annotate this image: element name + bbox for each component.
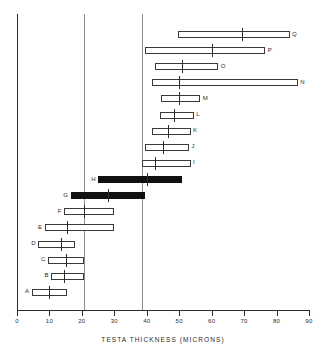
mean-marker xyxy=(67,221,68,234)
bar-row: F xyxy=(17,205,309,217)
range-bar xyxy=(145,47,265,54)
range-bar xyxy=(161,95,200,102)
mean-marker xyxy=(212,44,213,57)
range-bar xyxy=(38,241,75,248)
mean-marker xyxy=(155,157,156,170)
mean-marker xyxy=(61,238,62,251)
bar-label: N xyxy=(300,79,304,85)
range-bar xyxy=(51,273,83,280)
chart-root: 0102030405060708090 QPONMLKJIHGFEDCBA TE… xyxy=(0,0,326,352)
bar-row: K xyxy=(17,125,309,137)
x-tick-label: 60 xyxy=(208,318,215,324)
x-tick-label: 30 xyxy=(111,318,118,324)
mean-marker xyxy=(84,205,85,218)
mean-marker xyxy=(174,109,175,122)
bar-row: M xyxy=(17,92,309,104)
mean-marker xyxy=(179,76,180,89)
mean-marker xyxy=(242,28,243,41)
x-tick-label: 0 xyxy=(15,318,19,324)
mean-marker xyxy=(179,92,180,105)
plot-area: 0102030405060708090 QPONMLKJIHGFEDCBA TE… xyxy=(17,14,309,310)
x-tick-label: 80 xyxy=(273,318,280,324)
bar-label: C xyxy=(41,256,45,262)
bar-row: Q xyxy=(17,28,309,40)
x-tick xyxy=(179,310,180,316)
bar-label: O xyxy=(221,63,226,69)
range-bar xyxy=(145,144,189,151)
x-tick-label: 90 xyxy=(305,318,312,324)
range-bar xyxy=(160,112,194,119)
x-tick xyxy=(82,310,83,316)
x-tick xyxy=(309,310,310,316)
bar-label: F xyxy=(58,208,62,214)
mean-marker xyxy=(163,141,164,154)
x-tick-label: 40 xyxy=(143,318,150,324)
x-tick-label: 20 xyxy=(78,318,85,324)
bar-label: M xyxy=(203,95,208,101)
mean-marker xyxy=(182,60,183,73)
bar-row: L xyxy=(17,109,309,121)
range-bar xyxy=(64,208,114,215)
bar-label: E xyxy=(38,224,42,230)
x-tick xyxy=(244,310,245,316)
range-bar xyxy=(155,63,218,70)
bar-row: N xyxy=(17,76,309,88)
bar-row: J xyxy=(17,141,309,153)
mean-marker xyxy=(66,254,67,267)
bar-row: G xyxy=(17,189,309,201)
bar-label: D xyxy=(31,240,35,246)
mean-marker xyxy=(49,286,50,299)
range-bar xyxy=(142,160,191,167)
bar-row: P xyxy=(17,44,309,56)
bar-label: A xyxy=(25,288,29,294)
bar-row: D xyxy=(17,238,309,250)
bar-row: C xyxy=(17,254,309,266)
bar-row: A xyxy=(17,286,309,298)
x-tick xyxy=(17,310,18,316)
bar-row: H xyxy=(17,173,309,185)
bar-row: B xyxy=(17,270,309,282)
mean-marker xyxy=(64,270,65,283)
x-tick-label: 50 xyxy=(176,318,183,324)
x-tick xyxy=(147,310,148,316)
x-tick xyxy=(49,310,50,316)
range-bar xyxy=(178,31,290,38)
bar-label: G xyxy=(63,192,68,198)
range-bar xyxy=(45,224,115,231)
bar-label: J xyxy=(191,143,194,149)
bar-row: I xyxy=(17,157,309,169)
bar-label: B xyxy=(45,272,49,278)
mean-marker xyxy=(147,173,148,186)
bar-label: P xyxy=(268,47,272,53)
x-tick xyxy=(212,310,213,316)
mean-marker xyxy=(168,125,169,138)
bar-row: E xyxy=(17,221,309,233)
range-bar xyxy=(152,128,191,135)
bar-label: I xyxy=(193,159,195,165)
bar-row: O xyxy=(17,60,309,72)
bar-label: Q xyxy=(292,31,297,37)
x-axis-line xyxy=(17,310,309,311)
x-tick xyxy=(277,310,278,316)
bar-label: H xyxy=(91,176,95,182)
mean-marker xyxy=(108,189,109,202)
bar-label: L xyxy=(196,111,199,117)
x-axis-title: TESTA THICKNESS (MICRONS) xyxy=(17,336,309,343)
bar-label: K xyxy=(193,127,197,133)
range-bar xyxy=(152,79,298,86)
range-bar xyxy=(98,176,182,183)
x-tick-label: 70 xyxy=(240,318,247,324)
x-tick-label: 10 xyxy=(46,318,53,324)
x-tick xyxy=(114,310,115,316)
